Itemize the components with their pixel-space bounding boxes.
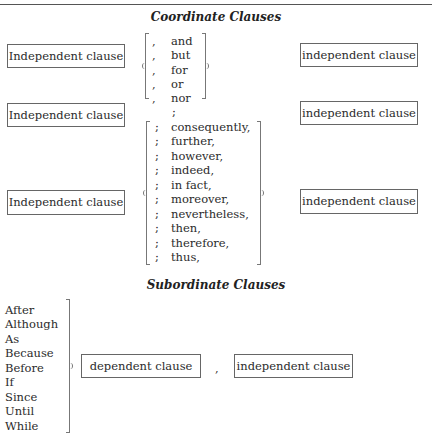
comma-punct: , [152, 48, 156, 62]
adverb-however: however, [171, 149, 223, 163]
comma-punct: , [152, 77, 156, 91]
independent-clause-box-subordinate: independent clause [234, 354, 353, 378]
adverb-thus: thus, [171, 250, 200, 264]
adverb-further: further, [171, 134, 215, 148]
adverb-in-fact: in fact, [171, 178, 212, 192]
semicolon-punct: ; [155, 178, 159, 192]
conjunction-nor: nor [171, 91, 191, 105]
adverb-consequently: consequently, [171, 120, 250, 134]
subordinate-heading: Subordinate Clauses [0, 278, 432, 292]
semicolon-punct: ; [155, 192, 159, 206]
subordinator-as: As [5, 332, 19, 346]
independent-clause-box-left-3: Independent clause [7, 190, 125, 215]
subordinator-before: Before [5, 361, 44, 375]
semicolon-alone: ; [172, 105, 176, 119]
comma-punct: , [152, 63, 156, 77]
subordinator-after: After [5, 303, 34, 317]
subordinator-because: Because [5, 346, 54, 360]
comma-punct: , [215, 361, 219, 375]
semicolon-punct: ; [155, 134, 159, 148]
semicolon-punct: ; [155, 221, 159, 235]
semicolon-punct: ; [155, 120, 159, 134]
independent-clause-box-left-2: Independent clause [7, 103, 125, 127]
semicolon-punct: ; [155, 236, 159, 250]
conjunction-or: or [171, 77, 183, 91]
left-brace-conjunctions [145, 33, 149, 99]
right-brace-conjunctions [202, 33, 206, 99]
right-brace-subordinators [66, 299, 70, 433]
conjunction-for: for [171, 63, 188, 77]
right-brace-adverbs [257, 121, 261, 265]
adverb-nevertheless: nevertheless, [171, 207, 249, 221]
coordinate-heading: Coordinate Clauses [0, 10, 432, 24]
semicolon-punct: ; [155, 149, 159, 163]
left-brace-adverbs [146, 121, 150, 265]
comma-punct: , [152, 91, 156, 105]
semicolon-punct: ; [155, 163, 159, 177]
subordinator-if: If [5, 375, 14, 389]
semicolon-punct: ; [155, 207, 159, 221]
adverb-then: then, [171, 221, 201, 235]
independent-clause-box-right-1: independent clause [300, 43, 418, 67]
dependent-clause-box: dependent clause [81, 354, 201, 378]
comma-punct: , [152, 34, 156, 48]
top-rule [0, 4, 432, 5]
adverb-therefore: therefore, [171, 236, 229, 250]
subordinator-until: Until [5, 404, 34, 418]
subordinator-while: While [5, 419, 38, 433]
conjunction-but: but [171, 48, 190, 62]
independent-clause-box-right-2: independent clause [300, 101, 418, 125]
adverb-moreover: moreover, [171, 192, 229, 206]
subordinator-although: Although [5, 317, 58, 331]
subordinator-since: Since [5, 390, 37, 404]
semicolon-punct: ; [155, 250, 159, 264]
independent-clause-box-left-1: Independent clause [7, 44, 125, 68]
independent-clause-box-right-3: independent clause [300, 189, 418, 214]
adverb-indeed: indeed, [171, 163, 214, 177]
conjunction-and: and [171, 34, 193, 48]
